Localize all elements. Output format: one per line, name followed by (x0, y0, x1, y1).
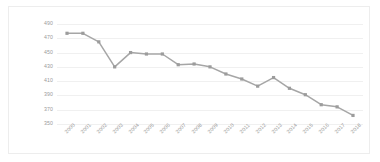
x-axis-tick-label: 2017 (334, 123, 346, 135)
x-axis-tick-label: 2009 (207, 123, 219, 135)
x-axis-tick-label: 2015 (302, 123, 314, 135)
y-axis-tick-label: 390 (29, 93, 53, 98)
y-axis-tick-label: 470 (29, 36, 53, 41)
y-axis-tick-label: 370 (29, 107, 53, 112)
chart-plot-area: 490470450430410390370350 200020012002200… (9, 7, 371, 155)
y-axis-tick-label: 430 (29, 64, 53, 69)
x-axis-tick-label: 2003 (112, 123, 124, 135)
x-axis-tick-labels: 2000200120022003200420052006200720082009… (57, 7, 363, 155)
x-axis-tick-label: 2016 (318, 123, 330, 135)
x-axis-tick-label: 2004 (128, 123, 140, 135)
y-axis-tick-label: 410 (29, 79, 53, 84)
y-axis-tick-label: 450 (29, 50, 53, 55)
y-axis-tick-labels: 490470450430410390370350 (27, 7, 53, 155)
x-axis-tick-label: 2001 (80, 123, 92, 135)
x-axis-tick-label: 2014 (286, 123, 298, 135)
x-axis-tick-label: 2008 (191, 123, 203, 135)
x-axis-tick-label: 2005 (143, 123, 155, 135)
x-axis-tick-label: 2013 (271, 123, 283, 135)
x-axis-tick-label: 2006 (159, 123, 171, 135)
x-axis-tick-label: 2012 (255, 123, 267, 135)
y-axis-tick-label: 490 (29, 21, 53, 26)
y-axis-tick-label: 350 (29, 121, 53, 126)
chart-frame: 490470450430410390370350 200020012002200… (8, 6, 370, 154)
x-axis-tick-label: 2018 (350, 123, 362, 135)
x-axis-tick-label: 2007 (175, 123, 187, 135)
x-axis-tick-label: 2010 (223, 123, 235, 135)
x-axis-tick-label: 2000 (64, 123, 76, 135)
x-axis-tick-label: 2011 (239, 123, 251, 135)
x-axis-tick-label: 2002 (96, 123, 108, 135)
